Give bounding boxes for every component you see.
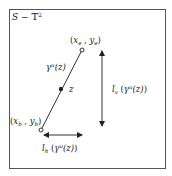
diagram-canvas: S − 𝕋2 (xe , ye) (xb , yb) z γu(z) lv (γ… [0,0,172,176]
curve-label: γu(z) [46,62,66,73]
region-title: S − 𝕋2 [12,11,42,23]
z-point-marker [59,87,63,91]
z-point-label: z [68,84,74,94]
vertical-length-label: lv (γu(z)) [112,84,147,95]
begin-point-marker [39,128,43,132]
horizontal-length-label: lh (γu(z)) [42,143,77,154]
end-point-label: (xe , ye) [70,35,101,46]
begin-point-label: (xb , yb) [10,116,41,127]
end-point-marker [80,48,84,52]
